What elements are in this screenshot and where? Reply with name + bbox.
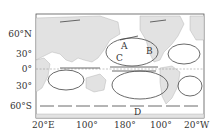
latitude-label-60n: 60°N [8,30,32,39]
current-label-a: A [121,42,128,51]
longitude-label-100w: 100° [150,121,172,130]
longitude-label-100e: 100° [76,121,98,130]
longitude-label-20w: 20°W [184,121,209,130]
current-label-b: B [146,47,153,56]
current-label-c: C [116,54,123,63]
longitude-label-180: 180° [114,121,136,130]
latitude-label-30n: 30° [16,50,32,59]
latitude-label-30s: 30° [16,82,32,91]
current-label-d: D [134,108,141,117]
world-ocean-currents-map [0,0,214,140]
longitude-label-20e: 20°E [32,121,55,130]
latitude-label-0: 0° [22,65,32,74]
latitude-label-60s: 60°S [10,102,32,111]
